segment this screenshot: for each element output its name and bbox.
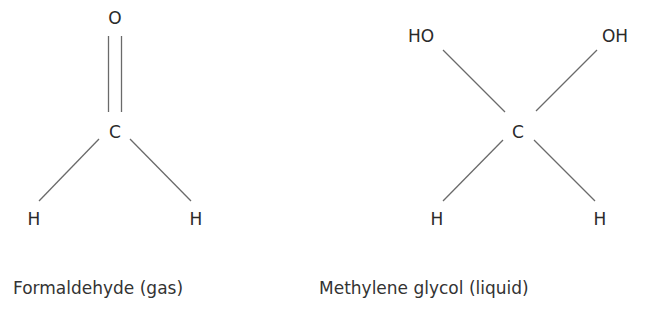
methylene-glycol-caption: Methylene glycol (liquid)	[319, 278, 529, 298]
bond-c-h-right	[130, 139, 191, 201]
atom-oxygen: O	[108, 10, 121, 27]
atom-hydroxyl-left: HO	[408, 28, 434, 45]
bond-lines	[0, 0, 659, 309]
bond-c-h-left	[39, 139, 99, 201]
formaldehyde-caption: Formaldehyde (gas)	[13, 278, 183, 298]
bond-c-ho-left	[443, 50, 505, 112]
atom-hydrogen-left: H	[28, 211, 41, 228]
atom-hydrogen-right-glycol: H	[594, 211, 607, 228]
atom-hydroxyl-right: OH	[602, 28, 628, 45]
atom-carbon-glycol: C	[512, 124, 524, 141]
bond-c-oh-right	[536, 50, 597, 111]
atom-hydrogen-right: H	[190, 211, 203, 228]
bond-c-h-right-glycol	[534, 140, 595, 201]
atom-hydrogen-left-glycol: H	[431, 211, 444, 228]
atom-carbon: C	[109, 124, 121, 141]
bond-c-h-left-glycol	[443, 140, 503, 201]
